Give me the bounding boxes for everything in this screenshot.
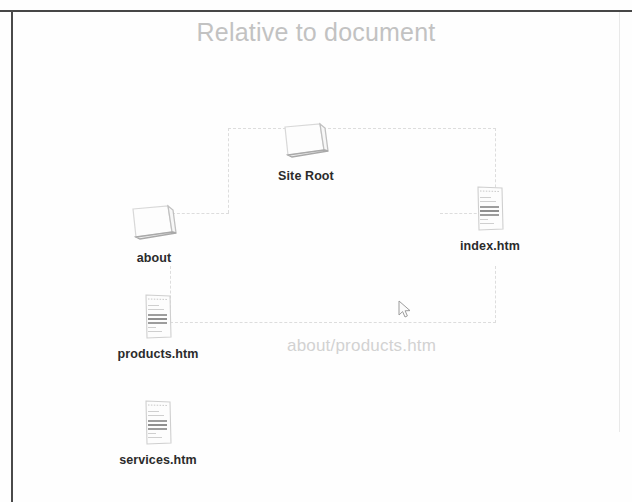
document-icon: [98, 284, 218, 342]
tree-node-label-site-root: Site Root: [246, 169, 366, 183]
folder-icon: [94, 188, 214, 246]
diagram-page: Relative to document Site Rootaboutindex…: [0, 0, 632, 502]
document-icon: [98, 390, 218, 448]
ghost-path-label: about/products.htm: [287, 336, 436, 356]
page-title: Relative to document: [0, 18, 632, 47]
connector-about-riser: [228, 128, 229, 213]
tree-node-services-htm[interactable]: services.htm: [98, 390, 218, 467]
document-icon: [141, 292, 175, 342]
tree-node-index-htm[interactable]: index.htm: [430, 176, 550, 253]
mouse-pointer-icon: [398, 300, 412, 320]
tree-node-label-products-htm: products.htm: [98, 347, 218, 361]
tree-node-label-services-htm: services.htm: [98, 453, 218, 467]
document-icon: [141, 398, 175, 448]
tree-node-label-about: about: [94, 251, 214, 265]
document-icon: [473, 184, 507, 234]
page-border-top: [0, 10, 632, 12]
tree-node-site-root[interactable]: Site Root: [246, 106, 366, 183]
tree-node-products-htm[interactable]: products.htm: [98, 284, 218, 361]
tree-node-about[interactable]: about: [94, 188, 214, 265]
connector-index-drop: [495, 266, 496, 323]
folder-icon: [280, 120, 332, 164]
document-icon: [430, 176, 550, 234]
page-border-right: [619, 12, 620, 432]
folder-icon: [128, 202, 180, 246]
page-border-left: [11, 10, 13, 502]
tree-node-label-index-htm: index.htm: [430, 239, 550, 253]
connector-products-rail: [170, 322, 496, 323]
folder-icon: [246, 106, 366, 164]
